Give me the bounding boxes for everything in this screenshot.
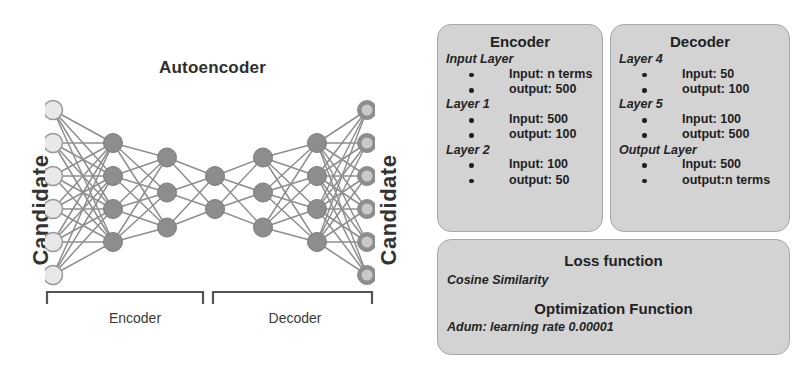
network-node-output-center xyxy=(362,171,373,182)
encoder-box-title: Encoder xyxy=(438,33,602,50)
layer-item: output: 100 xyxy=(611,82,789,97)
layer-item: Input: 500 xyxy=(438,112,602,127)
layer-group-name: Layer 1 xyxy=(446,97,602,112)
network-node-hidden xyxy=(206,167,225,186)
network-node-hidden xyxy=(104,167,123,186)
network-node-hidden xyxy=(158,148,177,167)
layer-item-list: Input: 50output: 100 xyxy=(611,67,789,98)
bracket-label-encoder: Encoder xyxy=(55,310,215,326)
output-axis-label: Candidate xyxy=(376,140,402,280)
layer-group: Layer 2Input: 100output: 50 xyxy=(438,143,602,188)
network-node-hidden xyxy=(308,233,327,252)
encoder-layer-groups: Input LayerInput: n termsoutput: 500Laye… xyxy=(438,52,602,188)
layer-group: Output LayerInput: 500output:n terms xyxy=(611,143,789,188)
functions-spec-box: Loss function Cosine Similarity Optimiza… xyxy=(437,239,790,355)
network-node-input xyxy=(45,101,63,120)
network-node-input xyxy=(45,233,63,252)
layer-item: output:n terms xyxy=(611,173,789,188)
layer-item-list: Input: n termsoutput: 500 xyxy=(438,67,602,98)
layer-item-list: Input: 100output: 500 xyxy=(611,112,789,143)
layer-item: output: 100 xyxy=(438,127,602,142)
layer-item: Input: 100 xyxy=(438,157,602,172)
layer-item: output: 500 xyxy=(438,82,602,97)
layer-group-name: Layer 5 xyxy=(619,97,789,112)
network-node-output-center xyxy=(362,237,373,248)
optimization-function-value: Adum: learning rate 0.00001 xyxy=(447,320,789,334)
network-edge xyxy=(53,176,113,275)
layer-item: output: 50 xyxy=(438,173,602,188)
layer-group: Input LayerInput: n termsoutput: 500 xyxy=(438,52,602,97)
loss-function-title: Loss function xyxy=(438,252,789,269)
network-node-hidden xyxy=(158,218,177,237)
layer-item: Input: 50 xyxy=(611,67,789,82)
layer-group-name: Input Layer xyxy=(446,52,602,67)
bracket-label-decoder: Decoder xyxy=(215,310,375,326)
network-node-hidden xyxy=(254,218,273,237)
network-node-hidden xyxy=(254,183,273,202)
network-node-input xyxy=(45,200,63,219)
autoencoder-diagram-panel: Autoencoder Candidate Candidate Encoder … xyxy=(0,0,425,388)
optimization-function-title: Optimization Function xyxy=(438,300,789,317)
network-node-hidden xyxy=(254,148,273,167)
decoder-layer-groups: Layer 4Input: 50output: 100Layer 5Input:… xyxy=(611,52,789,188)
network-node-hidden xyxy=(308,200,327,219)
layer-group: Layer 1Input: 500output: 100 xyxy=(438,97,602,142)
layer-group: Layer 5Input: 100output: 500 xyxy=(611,97,789,142)
decoder-spec-box: Decoder Layer 4Input: 50output: 100Layer… xyxy=(610,24,790,232)
layer-group-name: Layer 2 xyxy=(446,143,602,158)
layer-item: output: 500 xyxy=(611,127,789,142)
layer-item-list: Input: 100output: 50 xyxy=(438,157,602,188)
network-node-hidden xyxy=(308,134,327,153)
network-node-hidden xyxy=(206,200,225,219)
layer-group-name: Layer 4 xyxy=(619,52,789,67)
loss-function-value: Cosine Similarity xyxy=(447,273,789,287)
layer-item: Input: 500 xyxy=(611,157,789,172)
network-node-hidden xyxy=(308,167,327,186)
decoder-box-title: Decoder xyxy=(611,33,789,50)
diagram-title: Autoencoder xyxy=(0,58,425,78)
layer-group-name: Output Layer xyxy=(619,143,789,158)
encoder-bracket xyxy=(47,292,203,304)
network-node-hidden xyxy=(104,134,123,153)
neural-network-graphic xyxy=(45,95,375,290)
network-node-hidden xyxy=(104,200,123,219)
network-node-output-center xyxy=(362,204,373,215)
layer-item-list: Input: 500output: 100 xyxy=(438,112,602,143)
layer-item: Input: 100 xyxy=(611,112,789,127)
network-node-output-center xyxy=(362,138,373,149)
layer-item: Input: n terms xyxy=(438,67,602,82)
decoder-bracket xyxy=(213,292,372,304)
network-node-output-center xyxy=(362,270,373,281)
encoder-spec-box: Encoder Input LayerInput: n termsoutput:… xyxy=(437,24,603,232)
network-node-hidden xyxy=(104,233,123,252)
layer-item-list: Input: 500output:n terms xyxy=(611,157,789,188)
network-node-input xyxy=(45,134,63,153)
network-node-input xyxy=(45,266,63,285)
network-node-hidden xyxy=(158,183,177,202)
network-node-output-center xyxy=(362,105,373,116)
encoder-decoder-brackets xyxy=(45,288,375,310)
network-node-input xyxy=(45,167,63,186)
layer-group: Layer 4Input: 50output: 100 xyxy=(611,52,789,97)
